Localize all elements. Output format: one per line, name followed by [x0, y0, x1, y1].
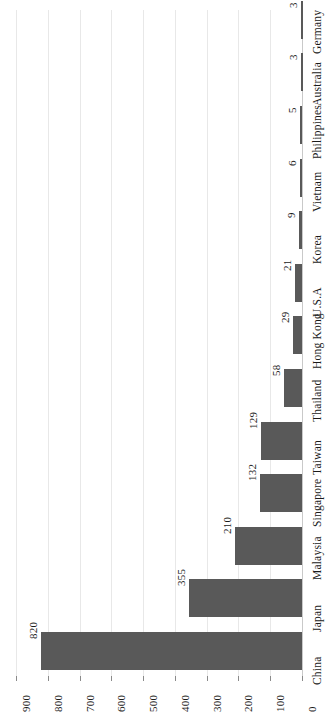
bar-value-label: 3: [287, 55, 299, 61]
category-label: Singapore: [311, 479, 323, 527]
axis-tick-mark: [143, 676, 144, 681]
category-label: Korea: [311, 235, 323, 264]
axis-tick-label: 700: [84, 695, 96, 712]
bar: [41, 632, 302, 670]
bar: [300, 159, 302, 197]
plot-area: 9008007006005004003002001000820China355J…: [0, 0, 336, 724]
bar: [300, 106, 302, 144]
bar-value-label: 129: [247, 411, 259, 428]
bar-value-label: 210: [221, 517, 233, 534]
bar-value-label: 21: [281, 259, 293, 270]
bar-value-label: 132: [246, 464, 258, 481]
category-label: U.S.A: [311, 287, 323, 317]
bar-chart: 9008007006005004003002001000820China355J…: [0, 0, 336, 724]
bar: [301, 1, 303, 39]
category-label: Germany: [311, 10, 323, 54]
axis-tick-mark: [16, 676, 17, 681]
category-label: Taiwan: [311, 440, 323, 475]
gridline: [270, 10, 271, 676]
bar-value-label: 6: [286, 160, 298, 166]
category-label: Philippines: [311, 105, 323, 159]
axis-tick-mark: [48, 676, 49, 681]
category-label: Japan: [311, 605, 323, 632]
gridline: [143, 10, 144, 676]
gridline: [207, 10, 208, 676]
axis-tick-mark: [270, 676, 271, 681]
axis-tick-mark: [80, 676, 81, 681]
bar-value-label: 58: [270, 365, 282, 376]
category-label: Thailand: [311, 380, 323, 422]
gridline: [238, 10, 239, 676]
bar: [299, 211, 302, 249]
axis-tick-label: 0: [306, 706, 318, 712]
axis-tick-label: 200: [242, 695, 254, 712]
bar: [260, 474, 302, 512]
axis-tick-label: 900: [20, 695, 32, 712]
gridline: [80, 10, 81, 676]
bar: [295, 264, 302, 302]
category-label: Australia: [311, 62, 323, 106]
gridline: [48, 10, 49, 676]
bar-value-label: 820: [27, 622, 39, 639]
bar-value-label: 5: [286, 107, 298, 113]
axis-tick-label: 800: [52, 695, 64, 712]
bar-value-label: 29: [279, 312, 291, 323]
category-label: China: [311, 657, 323, 685]
axis-tick-label: 300: [211, 695, 223, 712]
bar: [235, 527, 302, 565]
bar-value-label: 9: [285, 212, 297, 218]
bar: [189, 579, 302, 617]
axis-tick-mark: [111, 676, 112, 681]
bar-value-label: 355: [175, 569, 187, 586]
bar: [301, 53, 303, 91]
axis-tick-mark: [302, 676, 303, 681]
gridline: [111, 10, 112, 676]
category-label: Vietnam: [311, 171, 323, 211]
axis-tick-mark: [175, 676, 176, 681]
axis-tick-label: 100: [274, 695, 286, 712]
bar: [261, 422, 302, 460]
category-label: Malaysia: [311, 536, 323, 580]
axis-tick-mark: [238, 676, 239, 681]
axis-tick-label: 400: [179, 695, 191, 712]
axis-tick-mark: [207, 676, 208, 681]
bar-value-label: 3: [287, 2, 299, 8]
axis-tick-label: 500: [147, 695, 159, 712]
gridline: [16, 10, 17, 676]
bar: [284, 369, 302, 407]
axis-tick-label: 600: [115, 695, 127, 712]
category-label: Hong Kong: [311, 314, 323, 370]
bar: [293, 316, 302, 354]
